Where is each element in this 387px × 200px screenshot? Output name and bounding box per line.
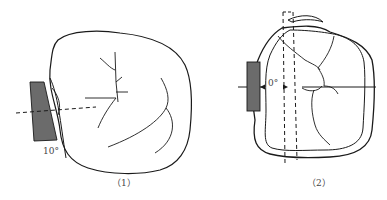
groove-2b (318, 36, 334, 68)
figure-1: 10° （1） (16, 31, 191, 188)
groove-branch1 (116, 77, 122, 82)
groove-down (98, 98, 116, 128)
wedge-block-1 (30, 82, 57, 141)
block-2 (247, 62, 260, 111)
arrow-right-icon (283, 85, 288, 90)
groove-2c (318, 68, 338, 94)
tooth-outline-1 (50, 31, 192, 173)
groove-right2 (155, 108, 172, 153)
groove-central (115, 52, 118, 102)
groove-2a (278, 36, 320, 70)
arrow-left-icon (260, 85, 265, 90)
groove-2d (312, 90, 330, 145)
dashed-guide-right (293, 12, 297, 160)
figure-2: 0° （2） (238, 12, 376, 188)
diagram-canvas: 10° （1） 0° （2） (0, 0, 387, 200)
angle-label-1: 10° (43, 146, 59, 156)
angle-label-2: 0° (268, 78, 278, 88)
caption-1: （1） (112, 178, 136, 188)
caption-2: （2） (307, 178, 331, 188)
groove-top (100, 58, 115, 70)
